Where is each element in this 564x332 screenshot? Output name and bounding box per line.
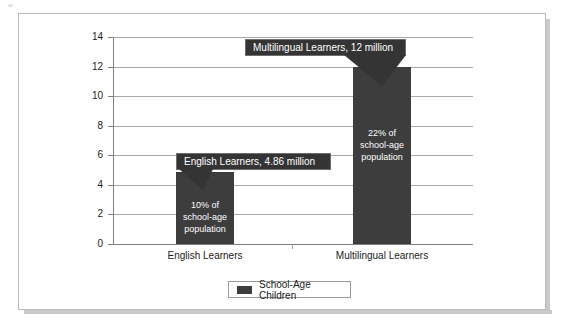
- y-tick-mark: [108, 155, 113, 156]
- callout-multilingual-learners: Multilingual Learners, 12 million: [245, 39, 406, 56]
- y-tick-label: 14: [67, 32, 103, 42]
- category-label-english-learners: English Learners: [145, 250, 265, 262]
- gridline-4: [114, 185, 473, 186]
- y-tick-mark: [108, 244, 113, 245]
- callout-label: English Learners, 4.86 million: [184, 156, 315, 167]
- gridline-8: [114, 126, 473, 127]
- y-tick-mark: [108, 96, 113, 97]
- y-tick-mark: [108, 37, 113, 38]
- y-axis-line: [113, 37, 114, 245]
- callout-label: Multilingual Learners, 12 million: [253, 42, 393, 53]
- y-tick-label: 8: [67, 121, 103, 131]
- y-tick-label: 2: [67, 209, 103, 219]
- plot-area: [114, 37, 473, 244]
- callout-arrow-multilingual: [344, 55, 406, 87]
- chart-page: 14 12 10 8 6 4 2 0 10% of school-age pop…: [0, 0, 564, 332]
- callout-english-learners: English Learners, 4.86 million: [176, 153, 331, 170]
- scan-speck-icon: [8, 4, 13, 7]
- x-axis-line: [113, 244, 473, 245]
- chart-frame: 14 12 10 8 6 4 2 0 10% of school-age pop…: [18, 13, 546, 310]
- callout-arrow-english: [179, 169, 223, 191]
- chart-legend: School-Age Children: [228, 281, 351, 298]
- bar-annotation-line3: population: [176, 223, 234, 235]
- bar-multilingual-learners[interactable]: 22% of school-age population: [353, 67, 411, 245]
- y-tick-label: 6: [67, 150, 103, 160]
- y-tick-label: 0: [67, 239, 103, 249]
- frame-shadow: [546, 19, 550, 314]
- category-label-multilingual-learners: Multilingual Learners: [319, 250, 445, 262]
- bar-annotation-line2: school-age: [176, 211, 234, 223]
- y-tick-mark: [108, 214, 113, 215]
- legend-swatch-icon: [237, 286, 252, 294]
- frame-shadow: [24, 310, 552, 314]
- gridline-2: [114, 214, 473, 215]
- y-tick-label: 10: [67, 91, 103, 101]
- gridline-10: [114, 96, 473, 97]
- x-axis-tick-mid: [292, 245, 293, 249]
- y-tick-mark: [108, 67, 113, 68]
- legend-label: School-Age Children: [259, 279, 350, 301]
- bar-annotation-line3: population: [353, 151, 411, 163]
- y-tick-label: 12: [67, 62, 103, 72]
- bar-annotation-line1: 10% of: [176, 199, 234, 211]
- y-tick-mark: [108, 185, 113, 186]
- bar-annotation-line1: 22% of: [353, 127, 411, 139]
- gridline-12: [114, 67, 473, 68]
- gridline-14: [114, 37, 473, 38]
- y-tick-label: 4: [67, 180, 103, 190]
- y-tick-mark: [108, 126, 113, 127]
- bar-annotation-line2: school-age: [353, 139, 411, 151]
